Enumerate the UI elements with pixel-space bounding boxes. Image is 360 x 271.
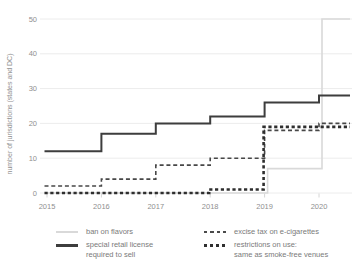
x-tick-label: 2017 bbox=[147, 202, 164, 211]
legend-label: ban on flavors bbox=[86, 227, 133, 237]
series-excise-tax-on-e-cigarettes bbox=[45, 123, 351, 186]
y-tick-label: 40 bbox=[29, 49, 37, 58]
x-tick-label: 2020 bbox=[311, 202, 328, 211]
legend-item-restrictions-on-use: restrictions on use:same as smoke-free v… bbox=[204, 240, 356, 260]
y-tick-label: 30 bbox=[29, 84, 37, 93]
y-tick-label: 0 bbox=[33, 189, 37, 198]
series-ban-on-flavors bbox=[45, 19, 351, 193]
series-restrictions-on-use-same-as-smoke-free-venues bbox=[45, 127, 351, 193]
x-tick-label: 2016 bbox=[93, 202, 110, 211]
excise-tax-line-swatch bbox=[204, 231, 226, 233]
restrictions-on-use-line-swatch bbox=[204, 244, 226, 247]
x-axis-tick-labels: 201520162017201820192020 bbox=[39, 202, 328, 211]
y-tick-label: 10 bbox=[29, 154, 37, 163]
ban-on-flavors-line-swatch bbox=[56, 231, 78, 233]
y-axis-tick-labels: 01020304050 bbox=[29, 15, 37, 198]
x-tick-label: 2015 bbox=[39, 202, 56, 211]
legend-label: special retail licenserequired to sell bbox=[86, 240, 153, 260]
y-axis-title: number of jurisdictions (states and DC) bbox=[6, 54, 14, 175]
x-tick-label: 2018 bbox=[202, 202, 219, 211]
y-tick-label: 20 bbox=[29, 119, 37, 128]
chart-legend: ban on flavors special retail licensereq… bbox=[0, 227, 360, 271]
legend-item-ban-on-flavors: ban on flavors bbox=[56, 227, 196, 237]
x-tick-label: 2019 bbox=[256, 202, 273, 211]
y-tick-label: 50 bbox=[29, 15, 37, 24]
step-line-chart: 01020304050201520162017201820192020numbe… bbox=[0, 0, 360, 224]
legend-label: excise tax on e-cigarettes bbox=[234, 227, 319, 237]
legend-label: restrictions on use:same as smoke-free v… bbox=[234, 240, 328, 260]
chart-panel: 01020304050201520162017201820192020numbe… bbox=[0, 0, 360, 224]
legend-item-excise-tax: excise tax on e-cigarettes bbox=[204, 227, 356, 237]
gridlines bbox=[40, 19, 352, 193]
legend-column-left: ban on flavors special retail licensereq… bbox=[56, 227, 196, 263]
legend-item-special-retail-license: special retail licenserequired to sell bbox=[56, 240, 196, 260]
special-retail-license-line-swatch bbox=[56, 244, 78, 247]
legend-column-right: excise tax on e-cigarettes restrictions … bbox=[204, 227, 356, 263]
